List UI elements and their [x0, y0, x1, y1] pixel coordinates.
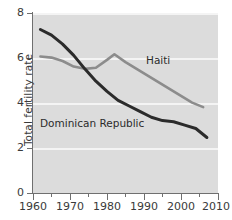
x-tick-1995 — [162, 194, 163, 198]
fertility-rate-line-chart: 8 6 4 2 0 1960 1970 1980 1990 2000 2010 … — [0, 0, 232, 220]
series-lines — [0, 0, 232, 220]
x-tick-1990 — [144, 194, 145, 200]
x-tick-label-1960: 1960 — [13, 200, 53, 213]
series-label-dominican-republic: Dominican Republic — [40, 117, 144, 129]
x-tick-1980 — [107, 194, 108, 200]
x-tick-label-1970: 1970 — [50, 200, 90, 213]
y-tick-8 — [27, 13, 32, 14]
x-tick-2000 — [181, 194, 182, 200]
x-tick-label-2000: 2000 — [161, 200, 201, 213]
x-tick-1985 — [125, 194, 126, 198]
x-tick-1965 — [51, 194, 52, 198]
x-tick-2005 — [199, 194, 200, 198]
series-label-haiti: Haiti — [146, 54, 170, 66]
x-tick-label-1980: 1980 — [87, 200, 127, 213]
x-tick-2010 — [218, 194, 219, 200]
x-tick-1970 — [70, 194, 71, 200]
y-tick-label-0: 0 — [8, 186, 24, 199]
x-tick-1960 — [33, 194, 34, 200]
y-tick-0 — [27, 193, 32, 194]
y-axis-title: Total fertility rate — [22, 20, 34, 180]
y-tick-label-8: 8 — [8, 6, 24, 19]
x-tick-1975 — [88, 194, 89, 198]
x-tick-label-1990: 1990 — [124, 200, 164, 213]
haiti-line — [40, 54, 203, 107]
x-tick-label-2010: 2010 — [196, 200, 232, 213]
